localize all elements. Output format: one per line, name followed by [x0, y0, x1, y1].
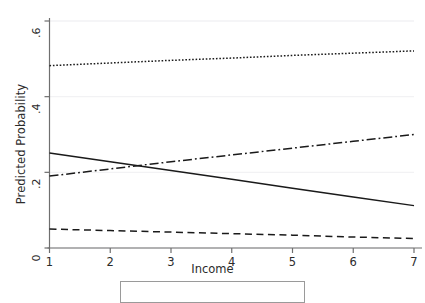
- series-line-1: [50, 135, 415, 177]
- y-tick-1: .2: [30, 179, 43, 190]
- series-line-3: [50, 229, 415, 238]
- y-tick-2: .4: [30, 103, 43, 114]
- legend-box: [120, 281, 305, 303]
- series-line-2: [50, 153, 415, 206]
- y-tick-3: .6: [30, 28, 43, 39]
- x-axis-label: Income: [0, 262, 425, 276]
- series-line-0: [50, 51, 415, 66]
- y-tick-labels: 0 .2 .4 .6: [8, 0, 40, 288]
- y-tick-0: 0: [30, 255, 43, 262]
